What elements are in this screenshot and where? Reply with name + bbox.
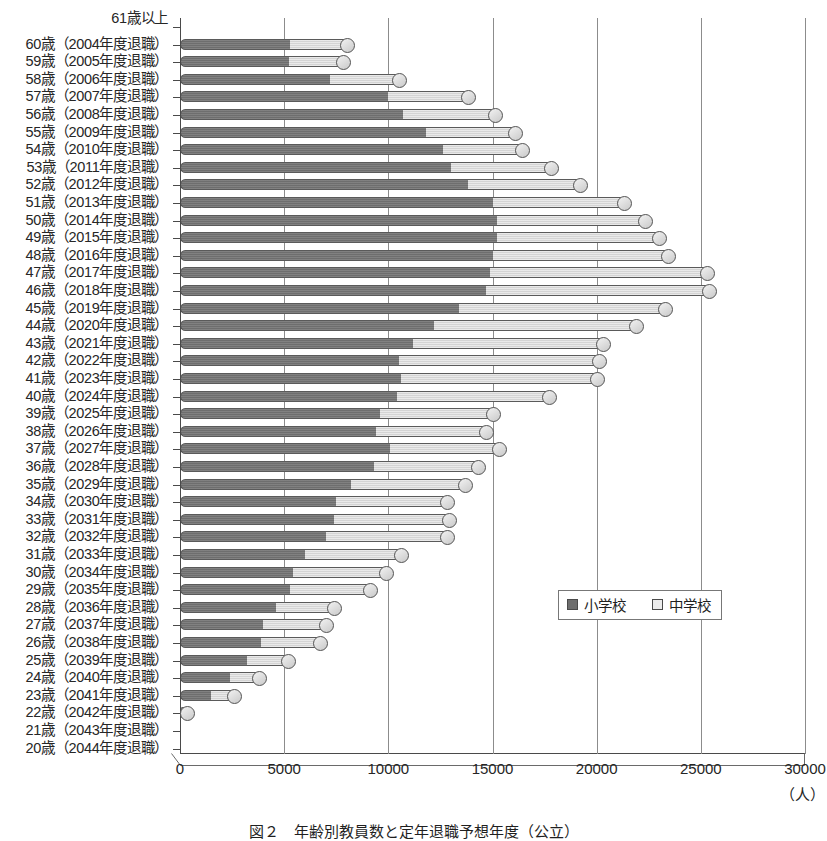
gridline-30000: [805, 18, 806, 754]
category-label-year: （2015年度退職）: [55, 228, 168, 246]
bar-end-cap: [596, 337, 611, 352]
x-axis-tick-labels: 050001000015000200002500030000: [0, 760, 827, 784]
bar-row: [180, 546, 805, 564]
category-label: 35歳（2029年度退職）: [26, 475, 169, 493]
category-label: 43歳（2021年度退職）: [26, 334, 169, 352]
legend-swatch-dark-icon: [567, 599, 578, 610]
category-label: 51歳（2013年度退職）: [26, 193, 169, 211]
category-label-year: （2008年度退職）: [55, 105, 168, 123]
y-tick: [173, 291, 180, 292]
bar-row: [180, 88, 805, 106]
category-label-year: （2039年度退職）: [55, 651, 168, 669]
y-tick: [173, 643, 180, 644]
category-label-year: （2004年度退職）: [55, 35, 168, 53]
bar-segment-junior-high: [443, 144, 522, 155]
y-tick: [173, 502, 180, 503]
legend-label-elementary: 小学校: [584, 594, 626, 615]
category-label: 26歳（2038年度退職）: [26, 633, 169, 651]
bar-row: [180, 528, 805, 546]
bar-end-cap: [440, 530, 455, 545]
category-label-age: 39歳: [26, 404, 55, 422]
bar-segment-elementary: [180, 408, 380, 419]
category-label: 45歳（2019年度退職）: [26, 299, 169, 317]
bar-segment-elementary: [180, 672, 230, 683]
y-tick: [173, 238, 180, 239]
category-label: 31歳（2033年度退職）: [26, 545, 169, 563]
bar-segment-junior-high: [276, 602, 334, 613]
category-label-age: 32歳: [26, 527, 55, 545]
category-label-age: 23歳: [26, 686, 55, 704]
category-label-year: （2024年度退職）: [55, 387, 168, 405]
bar-row: [180, 634, 805, 652]
bar-segment-junior-high: [330, 74, 399, 85]
category-label-year: （2016年度退職）: [55, 246, 168, 264]
bar-end-cap: [227, 689, 242, 704]
bar-row: [180, 229, 805, 247]
category-label-year: （2028年度退職）: [55, 457, 168, 475]
bar-segment-elementary: [180, 531, 326, 542]
bar-segment-junior-high: [490, 267, 707, 278]
bar-segment-elementary: [180, 267, 490, 278]
y-tick: [173, 185, 180, 186]
category-label-year: （2023年度退職）: [55, 369, 168, 387]
category-label-age: 29歳: [26, 580, 55, 598]
y-tick: [173, 80, 180, 81]
category-label-age: 33歳: [26, 510, 55, 528]
category-label-age: 59歳: [26, 52, 55, 70]
bar-row: [180, 352, 805, 370]
category-label: 30歳（2034年度退職）: [26, 563, 169, 581]
y-tick: [173, 397, 180, 398]
y-tick: [173, 256, 180, 257]
bar-segment-junior-high: [399, 355, 599, 366]
bar-segment-elementary: [180, 74, 330, 85]
category-label: 27歳（2037年度退職）: [26, 615, 169, 633]
bar-segment-junior-high: [263, 619, 326, 630]
bar-row: [180, 704, 805, 722]
bar-row: [180, 335, 805, 353]
category-label-age: 25歳: [26, 651, 55, 669]
category-label-age: 48歳: [26, 246, 55, 264]
category-label: 46歳（2018年度退職）: [26, 281, 169, 299]
bar-row: [180, 36, 805, 54]
bar-segment-junior-high: [401, 373, 597, 384]
category-label-year: （2007年度退職）: [55, 87, 168, 105]
bar-end-cap: [379, 566, 394, 581]
category-label-age: 20歳: [26, 739, 55, 757]
bar-end-cap: [281, 654, 296, 669]
category-label-age: 42歳: [26, 351, 55, 369]
stacked-bar: [180, 549, 401, 560]
category-label-age: 30歳: [26, 563, 55, 581]
stacked-bar: [180, 267, 707, 278]
category-label: 29歳（2035年度退職）: [26, 580, 169, 598]
category-label: 24歳（2040年度退職）: [26, 668, 169, 686]
category-label-year: （2009年度退職）: [55, 123, 168, 141]
category-label-year: （2006年度退職）: [55, 70, 168, 88]
bar-end-cap: [658, 302, 673, 317]
y-tick: [173, 309, 180, 310]
category-label-age: 49歳: [26, 228, 55, 246]
bar-end-cap: [486, 407, 501, 422]
bar-end-cap: [702, 284, 717, 299]
category-label-age: 36歳: [26, 457, 55, 475]
bar-end-cap: [252, 671, 267, 686]
stacked-bar: [180, 408, 493, 419]
legend-swatch-light-icon: [652, 599, 663, 610]
stacked-bar: [180, 584, 370, 595]
stacked-bar: [180, 338, 603, 349]
bar-end-cap: [336, 55, 351, 70]
stacked-bar: [180, 179, 580, 190]
bar-segment-elementary: [180, 355, 399, 366]
category-label: 22歳（2042年度退職）: [26, 703, 169, 721]
category-label: 56歳（2008年度退職）: [26, 105, 169, 123]
bar-segment-elementary: [180, 373, 401, 384]
bar-segment-junior-high: [459, 303, 665, 314]
bar-segment-junior-high: [380, 408, 493, 419]
category-label-year: （2014年度退職）: [55, 211, 168, 229]
bar-segment-elementary: [180, 338, 413, 349]
category-label-age: 56歳: [26, 105, 55, 123]
bar-end-cap: [542, 390, 557, 405]
y-tick: [173, 45, 180, 46]
bar-segment-junior-high: [305, 549, 401, 560]
category-label: 58歳（2006年度退職）: [26, 70, 169, 88]
category-label-age: 21歳: [26, 721, 55, 739]
